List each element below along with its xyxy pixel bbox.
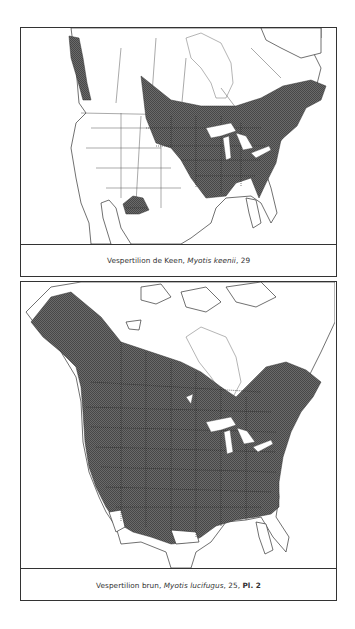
- caption-scientific-name: Myotis keenii: [187, 256, 236, 265]
- figure-keen-myotis: Vespertilion de Keen, Myotis keenii, 29: [20, 27, 337, 277]
- north-america-map: [21, 282, 335, 568]
- caption-plate: Pl. 2: [242, 581, 261, 590]
- figure-caption-keen: Vespertilion de Keen, Myotis keenii, 29: [21, 245, 336, 276]
- caption-common-name: Vespertilion de Keen,: [107, 256, 187, 265]
- range-map-keen-myotis: [21, 28, 336, 245]
- figure-little-brown-myotis: Vespertilion brun, Myotis lucifugus, 25,…: [20, 281, 337, 601]
- caption-reference: , 29: [236, 256, 250, 265]
- north-america-map: [21, 28, 335, 244]
- range-map-little-brown-myotis: [21, 282, 336, 569]
- caption-reference: , 25,: [224, 581, 243, 590]
- caption-common-name: Vespertilion brun,: [96, 581, 164, 590]
- figure-caption-little-brown: Vespertilion brun, Myotis lucifugus, 25,…: [21, 569, 336, 601]
- caption-scientific-name: Myotis lucifugus: [164, 581, 224, 590]
